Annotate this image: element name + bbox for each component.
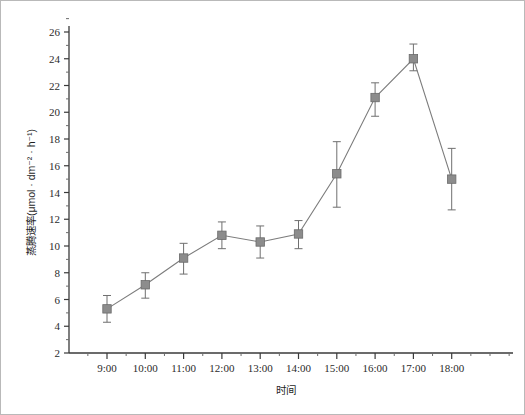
y-tick-label: 26 — [49, 26, 61, 38]
y-tick-label: 20 — [49, 106, 61, 118]
x-tick-label: 17:00 — [401, 362, 427, 374]
chart-figure: 2468101214161820222426 9:0010:0011:0012:… — [0, 0, 525, 415]
y-tick-label: 6 — [55, 294, 61, 306]
x-tick-label: 11:00 — [171, 362, 196, 374]
evapotranspiration-line-chart: 2468101214161820222426 9:0010:0011:0012:… — [1, 1, 525, 415]
data-point-marker — [141, 281, 149, 289]
y-tick-label: 22 — [49, 80, 60, 92]
data-point-marker — [256, 238, 264, 246]
data-point-marker — [371, 93, 379, 101]
data-point-marker — [103, 305, 111, 313]
y-tick-label: 2 — [55, 347, 61, 359]
data-point-marker — [333, 170, 341, 178]
x-tick-label: 13:00 — [248, 362, 274, 374]
y-axis-title: 蒸腾速率(μmol · dm⁻² · h⁻¹) — [25, 129, 37, 256]
y-tick-label: 24 — [49, 53, 61, 65]
y-tick-label: 18 — [49, 133, 61, 145]
x-tick-label: 15:00 — [324, 362, 350, 374]
x-tick-label: 12:00 — [209, 362, 235, 374]
x-axis-title: 时间 — [276, 384, 296, 396]
y-tick-label: 4 — [55, 320, 61, 332]
x-tick-label: 14:00 — [286, 362, 312, 374]
data-series — [103, 44, 456, 322]
x-tick-label: 9:00 — [97, 362, 117, 374]
data-point-marker — [294, 230, 302, 238]
y-tick-label: 8 — [55, 267, 61, 279]
x-tick-label: 10:00 — [133, 362, 159, 374]
data-point-marker — [448, 175, 456, 183]
y-tick-label: 16 — [49, 160, 61, 172]
y-tick-label: 10 — [49, 240, 61, 252]
plot-area: 2468101214161820222426 9:0010:0011:0012:… — [1, 1, 525, 415]
y-tick-label: 14 — [49, 187, 61, 199]
series-polyline — [107, 59, 452, 309]
data-point-marker — [409, 55, 417, 63]
x-axis: 9:0010:0011:0012:0013:0014:0015:0016:001… — [69, 353, 513, 374]
x-tick-label: 18:00 — [439, 362, 465, 374]
y-tick-label: 12 — [49, 213, 60, 225]
data-point-marker — [218, 231, 226, 239]
data-point-marker — [179, 254, 187, 262]
x-tick-label: 16:00 — [363, 362, 389, 374]
axis-titles: 时间蒸腾速率(μmol · dm⁻² · h⁻¹) — [25, 129, 296, 396]
y-axis: 2468101214161820222426 — [49, 19, 69, 359]
